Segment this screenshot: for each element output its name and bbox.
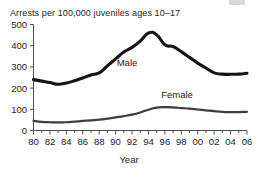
x-axis-title: Year bbox=[119, 154, 138, 165]
x-tick-label: 00 bbox=[192, 136, 203, 147]
x-tick-label: 80 bbox=[28, 136, 39, 147]
chart-plot: 0100200300400500 80828486889092949698000… bbox=[0, 0, 257, 169]
x-tick-label: 86 bbox=[77, 136, 88, 147]
x-tick-label: 92 bbox=[127, 136, 138, 147]
x-tick-label: 98 bbox=[176, 136, 187, 147]
y-tick-label: 100 bbox=[11, 104, 27, 115]
y-tick-label: 300 bbox=[11, 61, 27, 72]
data-series-group bbox=[34, 32, 248, 122]
series-label-female: Female bbox=[161, 89, 193, 100]
y-tick-label: 500 bbox=[11, 19, 27, 30]
chart-container: Arrests per 100,000 juveniles ages 10–17… bbox=[0, 0, 257, 169]
x-tick-label: 82 bbox=[45, 136, 56, 147]
x-tick-label: 84 bbox=[61, 136, 72, 147]
x-tick-label: 94 bbox=[143, 136, 154, 147]
y-axis-ticks: 0100200300400500 bbox=[11, 19, 33, 136]
series-line-male bbox=[34, 32, 248, 84]
x-tick-label: 88 bbox=[94, 136, 105, 147]
y-tick-label: 200 bbox=[11, 83, 27, 94]
series-label-male: Male bbox=[117, 57, 138, 68]
x-tick-label: 06 bbox=[242, 136, 253, 147]
x-axis-ticks: 8082848688909294969800020406 bbox=[28, 131, 252, 147]
x-tick-label: 02 bbox=[209, 136, 220, 147]
series-label-group: MaleFemale bbox=[117, 57, 193, 100]
y-tick-label: 0 bbox=[22, 125, 27, 136]
x-tick-label: 90 bbox=[110, 136, 121, 147]
x-tick-label: 96 bbox=[160, 136, 171, 147]
y-tick-label: 400 bbox=[11, 40, 27, 51]
series-line-female bbox=[34, 107, 248, 122]
x-tick-label: 04 bbox=[225, 136, 236, 147]
